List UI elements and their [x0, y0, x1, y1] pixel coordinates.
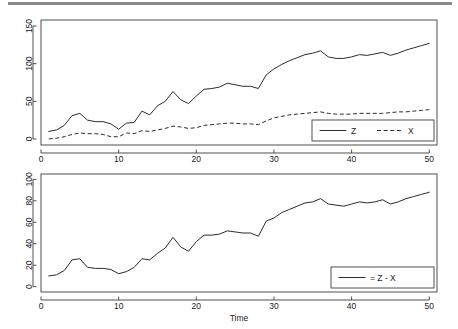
- x-tick-label: 40: [347, 154, 357, 164]
- legend-label: = Z - X: [370, 273, 396, 283]
- chart-panel-bottom: 02040608010001020304050Time= Z - X: [0, 164, 458, 329]
- y-tick-label: 100: [24, 172, 34, 186]
- x-tick-label: 40: [347, 301, 357, 311]
- y-tick-label: 0: [24, 136, 34, 141]
- series-line-z: [49, 43, 429, 131]
- legend-label: Z: [351, 126, 356, 136]
- series-line-z-x: [49, 192, 429, 276]
- x-tick-label: 30: [269, 154, 279, 164]
- y-tick-label: 150: [24, 19, 34, 33]
- y-tick-label: 60: [24, 217, 34, 227]
- x-tick-label: 50: [425, 301, 435, 311]
- x-tick-label: 0: [39, 154, 44, 164]
- x-tick-label: 0: [39, 301, 44, 311]
- y-tick-label: 50: [24, 96, 34, 106]
- bottom-chart-svg: 02040608010001020304050Time= Z - X: [0, 164, 458, 329]
- y-tick-label: 80: [24, 196, 34, 206]
- chart-page: 05010015001020304050ZX 02040608010001020…: [0, 0, 458, 329]
- x-tick-label: 20: [192, 301, 202, 311]
- top-chart-svg: 05010015001020304050ZX: [0, 6, 458, 164]
- x-tick-label: 10: [114, 301, 124, 311]
- x-tick-label: 20: [192, 154, 202, 164]
- y-tick-label: 40: [24, 239, 34, 249]
- legend[interactable]: ZX: [312, 120, 434, 141]
- header-rule: [8, 2, 452, 5]
- x-tick-label: 30: [269, 301, 279, 311]
- x-axis-title: Time: [230, 313, 249, 323]
- y-tick-label: 100: [24, 56, 34, 70]
- x-tick-label: 50: [425, 154, 435, 164]
- legend-label: X: [408, 126, 414, 136]
- chart-panel-top: 05010015001020304050ZX: [0, 6, 458, 164]
- y-tick-label: 0: [24, 284, 34, 289]
- x-tick-label: 10: [114, 154, 124, 164]
- legend[interactable]: = Z - X: [331, 267, 434, 288]
- y-tick-label: 20: [24, 260, 34, 270]
